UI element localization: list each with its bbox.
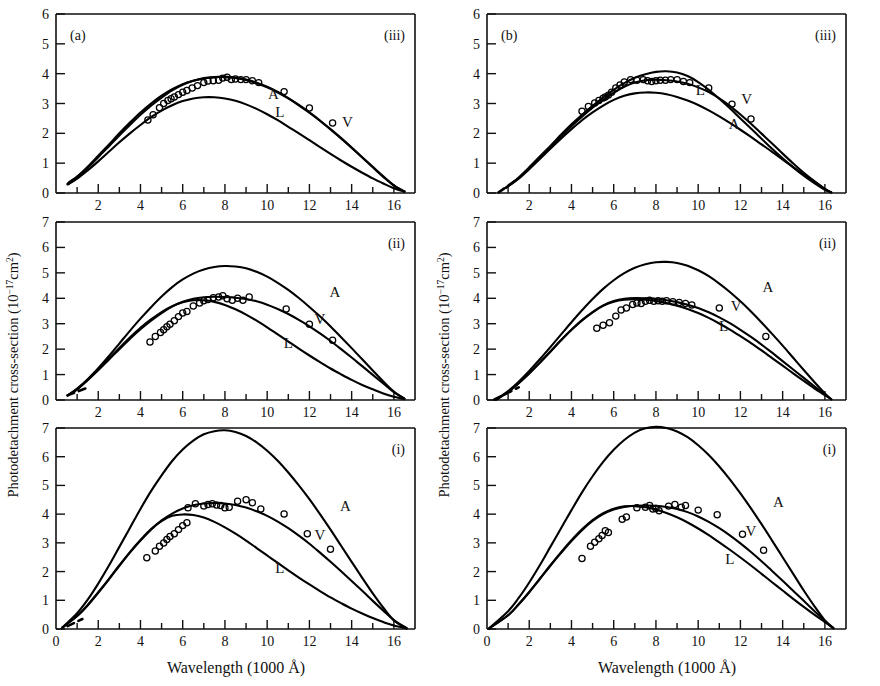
y-tick-label: 5 bbox=[473, 266, 480, 281]
figure-root: 2468101214160123456AVL(iii)(a)2468101214… bbox=[0, 0, 880, 686]
x-tick-label: 8 bbox=[221, 405, 228, 420]
x-tick-label: 10 bbox=[260, 405, 274, 420]
y-tick-label: 1 bbox=[473, 156, 480, 171]
y-tick-label: 0 bbox=[42, 186, 49, 201]
x-tick-label: 8 bbox=[652, 198, 659, 213]
curve-label-A: A bbox=[268, 86, 279, 102]
x-tick-label: 6 bbox=[610, 405, 617, 420]
panel-index-label: (i) bbox=[823, 442, 837, 458]
y-tick-label: 6 bbox=[473, 450, 480, 465]
x-tick-label: 12 bbox=[302, 634, 316, 649]
curve-label-L: L bbox=[719, 318, 728, 334]
y-tick-label: 6 bbox=[473, 7, 480, 22]
curve-label-L: L bbox=[275, 104, 284, 120]
x-tick-label: 14 bbox=[776, 405, 790, 420]
y-tick-label: 6 bbox=[42, 450, 49, 465]
column-label: (b) bbox=[501, 28, 518, 44]
x-tick-label: 12 bbox=[733, 634, 747, 649]
y-tick-label: 4 bbox=[42, 291, 49, 306]
y-tick-label: 2 bbox=[473, 126, 480, 141]
x-tick-label: 0 bbox=[53, 634, 60, 649]
x-tick-label: 4 bbox=[568, 198, 575, 213]
x-tick-label: 2 bbox=[526, 198, 533, 213]
x-axis-title: Wavelength (1000 Å) bbox=[598, 659, 736, 677]
y-tick-label: 4 bbox=[473, 291, 480, 306]
y-tick-label: 2 bbox=[42, 565, 49, 580]
curve-label-A: A bbox=[340, 498, 351, 514]
x-tick-label: 8 bbox=[652, 634, 659, 649]
x-tick-label: 10 bbox=[260, 634, 274, 649]
y-tick-label: 2 bbox=[42, 342, 49, 357]
x-tick-label: 14 bbox=[776, 198, 790, 213]
curve-label-L: L bbox=[284, 335, 293, 351]
panel-index-label: (ii) bbox=[388, 236, 405, 252]
x-tick-label: 12 bbox=[302, 198, 316, 213]
y-tick-label: 1 bbox=[42, 593, 49, 608]
x-tick-label: 14 bbox=[776, 634, 790, 649]
y-tick-label: 0 bbox=[42, 393, 49, 408]
x-tick-label: 6 bbox=[610, 634, 617, 649]
x-tick-label: 6 bbox=[179, 198, 186, 213]
curve-label-V: V bbox=[315, 527, 326, 543]
x-tick-label: 12 bbox=[733, 405, 747, 420]
curve-label-A: A bbox=[329, 284, 340, 300]
y-tick-label: 3 bbox=[473, 536, 480, 551]
y-tick-label: 0 bbox=[473, 393, 480, 408]
panel-index-label: (iii) bbox=[384, 28, 405, 44]
y-tick-label: 3 bbox=[473, 317, 480, 332]
x-tick-label: 8 bbox=[221, 634, 228, 649]
y-tick-label: 2 bbox=[473, 342, 480, 357]
x-tick-label: 4 bbox=[137, 405, 144, 420]
x-tick-label: 2 bbox=[526, 405, 533, 420]
y-tick-label: 0 bbox=[473, 622, 480, 637]
y-tick-label: 4 bbox=[473, 507, 480, 522]
curve-label-L: L bbox=[725, 551, 734, 567]
y-tick-label: 6 bbox=[473, 240, 480, 255]
photodetachment-figure: 2468101214160123456AVL(iii)(a)2468101214… bbox=[0, 0, 880, 686]
x-tick-label: 16 bbox=[818, 198, 832, 213]
x-tick-label: 6 bbox=[610, 198, 617, 213]
x-tick-label: 6 bbox=[179, 405, 186, 420]
curve-label-L: L bbox=[696, 82, 705, 98]
curve-label-V: V bbox=[731, 298, 742, 314]
y-tick-label: 4 bbox=[42, 67, 49, 82]
y-tick-label: 5 bbox=[42, 266, 49, 281]
panel-index-label: (iii) bbox=[815, 28, 836, 44]
y-tick-label: 4 bbox=[42, 507, 49, 522]
curve-label-V: V bbox=[746, 523, 757, 539]
curve-label-V: V bbox=[741, 91, 752, 107]
y-tick-label: 3 bbox=[473, 97, 480, 112]
y-tick-label: 5 bbox=[42, 478, 49, 493]
x-tick-label: 4 bbox=[137, 198, 144, 213]
x-tick-label: 4 bbox=[568, 634, 575, 649]
x-tick-label: 10 bbox=[691, 405, 705, 420]
y-tick-label: 3 bbox=[42, 97, 49, 112]
curve-label-A: A bbox=[762, 279, 773, 295]
y-tick-label: 6 bbox=[42, 240, 49, 255]
y-tick-label: 5 bbox=[473, 37, 480, 52]
y-tick-label: 3 bbox=[42, 536, 49, 551]
curve-label-A: A bbox=[773, 494, 784, 510]
x-tick-label: 16 bbox=[387, 198, 401, 213]
x-tick-label: 4 bbox=[568, 405, 575, 420]
x-tick-label: 0 bbox=[484, 634, 491, 649]
x-tick-label: 8 bbox=[221, 198, 228, 213]
y-tick-label: 0 bbox=[473, 186, 480, 201]
y-tick-label: 2 bbox=[42, 126, 49, 141]
y-tick-label: 1 bbox=[473, 368, 480, 383]
panel-index-label: (i) bbox=[392, 442, 406, 458]
x-tick-label: 12 bbox=[302, 405, 316, 420]
x-tick-label: 16 bbox=[818, 405, 832, 420]
x-tick-label: 14 bbox=[345, 634, 359, 649]
panel-index-label: (ii) bbox=[819, 236, 836, 252]
y-tick-label: 7 bbox=[42, 421, 49, 436]
x-tick-label: 14 bbox=[345, 198, 359, 213]
x-tick-label: 2 bbox=[526, 634, 533, 649]
y-tick-label: 5 bbox=[42, 37, 49, 52]
x-tick-label: 10 bbox=[691, 634, 705, 649]
x-tick-label: 8 bbox=[652, 405, 659, 420]
y-tick-label: 4 bbox=[473, 67, 480, 82]
x-tick-label: 10 bbox=[260, 198, 274, 213]
x-tick-label: 6 bbox=[179, 634, 186, 649]
y-tick-label: 7 bbox=[42, 215, 49, 230]
